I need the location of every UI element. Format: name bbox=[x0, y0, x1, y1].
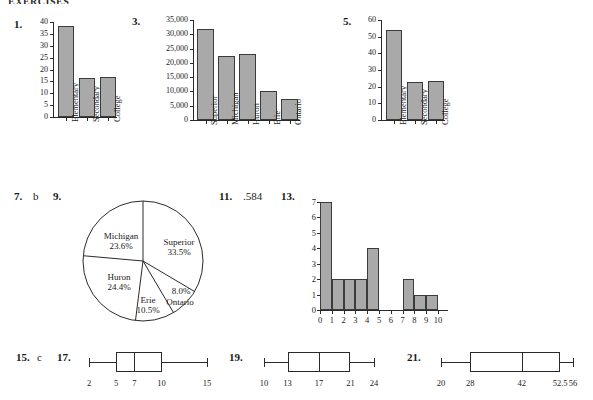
x-tick bbox=[415, 121, 416, 124]
boxplot-ex21: 20284252.556 bbox=[435, 348, 581, 390]
y-tick bbox=[190, 49, 193, 50]
answer-number-21: 21. bbox=[407, 351, 421, 363]
histogram-bar bbox=[344, 279, 356, 310]
whisker-left bbox=[441, 362, 470, 363]
boxplot-ex17: 2571015 bbox=[83, 348, 215, 390]
y-tick bbox=[190, 77, 193, 78]
x-tick bbox=[227, 121, 228, 124]
y-tick-label: 10 bbox=[36, 89, 48, 97]
y-tick-label: 15,000 bbox=[152, 73, 188, 81]
whisker-cap-max bbox=[374, 358, 375, 367]
whisker-right bbox=[350, 362, 374, 363]
boxplot-tick-label: 28 bbox=[454, 378, 486, 388]
answer-text-15: c bbox=[37, 351, 42, 363]
pie-label-superior: Superior33.5% bbox=[153, 237, 205, 257]
x-tick bbox=[344, 311, 345, 314]
y-tick-label: 5,000 bbox=[152, 102, 188, 110]
x-category-label: College bbox=[440, 99, 450, 125]
y-tick-label: 10,000 bbox=[152, 87, 188, 95]
y-tick-label: 25 bbox=[36, 54, 48, 62]
boxplot-tick-label: 17 bbox=[303, 378, 335, 388]
box bbox=[116, 352, 161, 372]
y-tick bbox=[378, 70, 381, 71]
x-tick bbox=[367, 311, 368, 314]
y-tick-label: 7 bbox=[303, 197, 316, 207]
y-tick bbox=[190, 91, 193, 92]
histogram-bar bbox=[320, 202, 332, 310]
y-tick bbox=[378, 20, 381, 21]
x-axis-line bbox=[320, 310, 448, 311]
x-category-label: Secondary bbox=[91, 86, 101, 122]
y-tick-label: 20 bbox=[364, 83, 376, 91]
whisker-left bbox=[89, 362, 116, 363]
histogram-bar bbox=[367, 248, 379, 310]
pie-label-ontario: Ontario bbox=[157, 297, 203, 307]
x-tick bbox=[66, 118, 67, 121]
histogram-bar bbox=[332, 279, 344, 310]
answer-number-13: 13. bbox=[281, 190, 295, 202]
x-tick bbox=[248, 121, 249, 124]
y-tick bbox=[378, 103, 381, 104]
whisker-cap-max bbox=[207, 358, 208, 367]
y-tick-label: 2 bbox=[303, 274, 316, 284]
x-tick bbox=[438, 311, 439, 314]
boxplot-tick-label: 20 bbox=[425, 378, 457, 388]
whisker-right bbox=[560, 362, 573, 363]
y-tick-label: 3 bbox=[303, 259, 316, 269]
histogram-bar bbox=[403, 279, 415, 310]
y-tick bbox=[50, 46, 53, 47]
y-tick bbox=[190, 63, 193, 64]
y-axis-line bbox=[53, 22, 54, 118]
histogram-bar bbox=[426, 295, 438, 310]
x-tick bbox=[391, 311, 392, 314]
y-tick bbox=[190, 20, 193, 21]
x-category-label: Elementary bbox=[70, 83, 80, 122]
pie-label-name: Ontario bbox=[157, 297, 203, 307]
y-tick-label: 60 bbox=[364, 16, 376, 24]
boxplot-tick-label: 56 bbox=[557, 378, 589, 388]
page-header: EXERCISES bbox=[8, 0, 69, 4]
y-tick-label: 0 bbox=[364, 116, 376, 124]
bar-chart-ex3: 05,00010,00015,00020,00025,00030,00035,0… bbox=[150, 12, 310, 180]
whisker-right bbox=[162, 362, 207, 363]
y-tick-label: 6 bbox=[303, 212, 316, 222]
x-tick bbox=[379, 311, 380, 314]
whisker-cap-min bbox=[264, 358, 265, 367]
y-tick bbox=[190, 120, 193, 121]
x-category-label: College bbox=[112, 96, 122, 122]
y-tick-label: 1 bbox=[303, 290, 316, 300]
y-tick-label: 30 bbox=[364, 66, 376, 74]
x-tick-label: 10 bbox=[430, 315, 446, 325]
y-tick-label: 30,000 bbox=[152, 30, 188, 38]
y-tick bbox=[50, 93, 53, 94]
histogram-bar bbox=[355, 279, 367, 310]
x-category-label: Secondary bbox=[419, 89, 429, 125]
y-tick-label: 10 bbox=[364, 99, 376, 107]
y-tick-label: 25,000 bbox=[152, 45, 188, 53]
y-tick bbox=[378, 53, 381, 54]
y-tick-label: 35,000 bbox=[152, 16, 188, 24]
whisker-cap-min bbox=[441, 358, 442, 367]
x-tick bbox=[108, 118, 109, 121]
boxplot-tick-label: 13 bbox=[272, 378, 304, 388]
x-tick bbox=[426, 311, 427, 314]
y-tick-label: 40 bbox=[364, 49, 376, 57]
pie-label-percent-ontario: 8.0% bbox=[163, 286, 199, 296]
y-tick bbox=[378, 87, 381, 88]
x-tick bbox=[403, 311, 404, 314]
y-tick bbox=[50, 34, 53, 35]
x-tick bbox=[320, 311, 321, 314]
boxplot-ex19: 1013172124 bbox=[258, 348, 382, 390]
x-tick bbox=[436, 121, 437, 124]
pie-label-huron: Huron24.4% bbox=[93, 272, 145, 292]
answer-number-19: 19. bbox=[229, 351, 243, 363]
y-tick bbox=[378, 120, 381, 121]
y-tick-label: 40 bbox=[36, 18, 48, 26]
answer-number-17: 17. bbox=[57, 351, 71, 363]
y-tick bbox=[50, 117, 53, 118]
x-category-label: Ontario bbox=[293, 99, 303, 125]
box bbox=[470, 352, 560, 372]
whisker-left bbox=[264, 362, 288, 363]
y-tick bbox=[378, 37, 381, 38]
x-tick bbox=[290, 121, 291, 124]
